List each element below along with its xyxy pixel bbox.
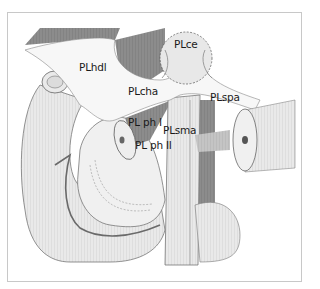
label-plhdl: PLhdl (79, 62, 106, 73)
sma (165, 95, 200, 265)
label-pl-ph-i: PL ph I (128, 117, 162, 128)
label-pl-ph-ii: PL ph II (135, 140, 172, 151)
label-plcha: PLcha (128, 86, 158, 97)
jejunum (195, 202, 240, 262)
label-plsma: PLsma (163, 125, 196, 136)
label-plce: PLce (174, 39, 198, 50)
label-plspa: PLspa (210, 92, 240, 103)
